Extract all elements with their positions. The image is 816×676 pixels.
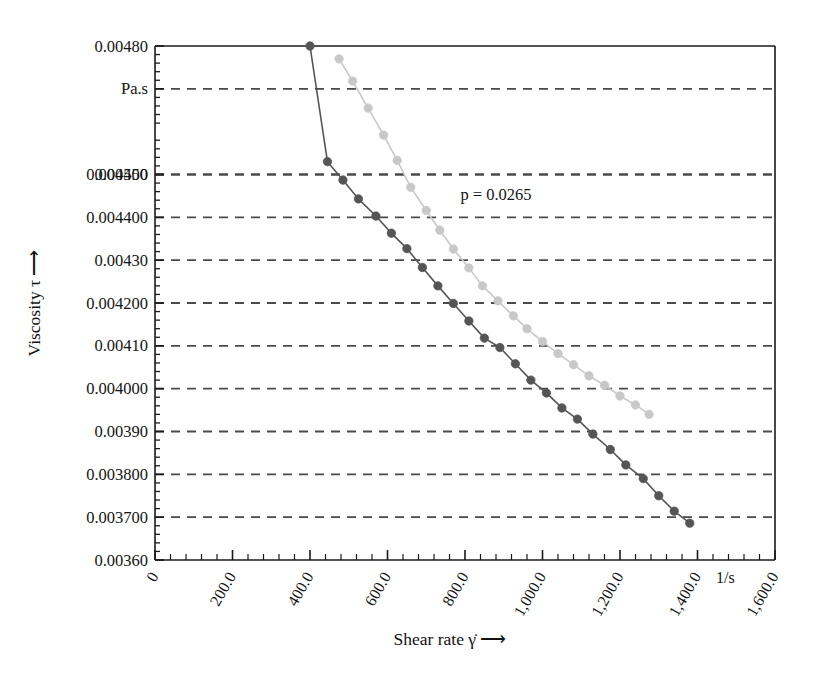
data-point-marker <box>686 519 694 527</box>
data-point-marker <box>631 401 639 409</box>
data-point-marker <box>449 245 457 253</box>
data-point-marker <box>585 372 593 380</box>
y-tick-label: 0.004000 <box>86 379 148 398</box>
data-point-marker <box>364 104 372 112</box>
y-axis-title: Viscosity τ ⟶ <box>24 250 44 357</box>
viscosity-vs-shear-rate-chart: 0.00480Pa.s0.0045000.004500.0044000.0043… <box>0 0 816 676</box>
y-tick-label: 0.00430 <box>94 251 148 270</box>
data-point-marker <box>434 282 442 290</box>
data-point-marker <box>538 337 546 345</box>
data-point-marker <box>323 157 331 165</box>
data-point-marker <box>407 183 415 191</box>
data-point-marker <box>449 299 457 307</box>
data-point-marker <box>354 195 362 203</box>
data-point-marker <box>480 334 488 342</box>
data-point-marker <box>645 410 653 418</box>
data-point-marker <box>393 156 401 164</box>
y-tick-label: 0.003800 <box>86 465 148 484</box>
chart-figure: 0.00480Pa.s0.0045000.004500.0044000.0043… <box>0 0 816 676</box>
y-tick-label: 0.00450 <box>94 165 148 184</box>
data-point-marker <box>509 312 517 320</box>
data-point-marker <box>335 55 343 63</box>
data-point-marker <box>465 264 473 272</box>
x-axis-title: Shear rate γ̇ ⟶ <box>394 629 507 649</box>
data-point-marker <box>573 415 581 423</box>
data-point-marker <box>436 226 444 234</box>
data-point-marker <box>422 206 430 214</box>
data-point-marker <box>494 297 502 305</box>
data-point-marker <box>403 244 411 252</box>
data-point-marker <box>465 317 473 325</box>
data-point-marker <box>379 131 387 139</box>
data-point-marker <box>306 42 314 50</box>
x-axis-unit-label: 1/s <box>716 569 735 586</box>
data-point-marker <box>622 461 630 469</box>
data-point-marker <box>606 445 614 453</box>
data-point-marker <box>511 360 519 368</box>
data-point-marker <box>639 474 647 482</box>
y-tick-label: 0.004400 <box>86 208 148 227</box>
y-tick-label: 0.003700 <box>86 508 148 527</box>
y-tick-label: 0.00480 <box>94 37 148 56</box>
data-point-marker <box>348 77 356 85</box>
data-point-marker <box>372 212 380 220</box>
data-point-marker <box>387 229 395 237</box>
annotation-label: p = 0.0265 <box>460 185 531 204</box>
data-point-marker <box>527 376 535 384</box>
annotations-group: p = 0.0265 <box>460 185 531 204</box>
data-point-marker <box>542 389 550 397</box>
data-point-marker <box>558 404 566 412</box>
y-tick-label: 0.00390 <box>94 422 148 441</box>
data-point-marker <box>523 325 531 333</box>
data-point-marker <box>655 492 663 500</box>
data-point-marker <box>589 430 597 438</box>
data-point-marker <box>616 392 624 400</box>
data-point-marker <box>339 176 347 184</box>
data-point-marker <box>600 381 608 389</box>
data-point-marker <box>478 282 486 290</box>
y-tick-label: 0.004200 <box>86 294 148 313</box>
y-tick-label: Pa.s <box>121 79 148 98</box>
data-point-marker <box>496 343 504 351</box>
data-point-marker <box>554 349 562 357</box>
data-point-marker <box>670 507 678 515</box>
data-point-marker <box>569 360 577 368</box>
data-point-marker <box>418 263 426 271</box>
y-tick-label: 0.00410 <box>94 336 148 355</box>
y-tick-label: 0.00360 <box>94 551 148 570</box>
